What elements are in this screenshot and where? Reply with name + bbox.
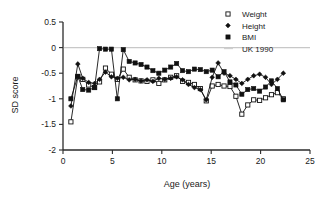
data-point-marker: [228, 73, 233, 78]
data-point-marker: [234, 83, 238, 87]
data-point-marker: [156, 76, 161, 81]
data-point-marker: [87, 88, 91, 92]
chart-canvas: 0.50-0.5-1-1.5-2 0510152025 SD score Age…: [0, 0, 329, 200]
data-point-marker: [145, 65, 149, 69]
data-point-marker: [257, 72, 262, 77]
data-point-marker: [228, 84, 232, 88]
data-point-marker: [240, 112, 244, 116]
data-point-marker: [169, 65, 173, 69]
data-point-marker: [216, 61, 221, 66]
data-point-marker: [175, 61, 179, 65]
data-point-marker: [226, 12, 230, 16]
data-point-marker: [246, 87, 250, 91]
data-point-marker: [222, 70, 226, 74]
data-point-marker: [93, 85, 97, 89]
data-point-marker: [163, 68, 167, 72]
legend-item-bmi[interactable]: BMI: [226, 33, 256, 42]
data-point-marker: [157, 81, 161, 85]
y-tick-label: 0.5: [44, 17, 56, 27]
data-point-marker: [69, 104, 74, 109]
data-series-layer: [69, 47, 286, 124]
data-point-marker: [198, 68, 202, 72]
data-point-marker: [252, 98, 256, 102]
data-point-marker: [234, 94, 238, 98]
data-point-marker: [275, 86, 279, 90]
data-point-marker: [75, 62, 80, 67]
data-point-marker: [216, 82, 220, 86]
x-tick-label: 10: [157, 156, 167, 166]
y-tick-label: -1.5: [41, 119, 56, 129]
data-point-marker: [186, 70, 190, 74]
x-tick-label: 0: [61, 156, 66, 166]
data-point-marker: [251, 73, 256, 78]
data-point-marker: [121, 75, 126, 80]
legend-label: Weight: [242, 10, 268, 19]
data-point-marker: [281, 98, 285, 102]
y-tick-label: 0: [51, 43, 56, 53]
legend-item-weight[interactable]: Weight: [226, 10, 268, 19]
x-tick-label: 25: [305, 156, 315, 166]
data-point-marker: [246, 103, 250, 107]
chart-legend: WeightHeightBMIUK 1990: [224, 10, 274, 54]
y-axis-tick-labels: 0.50-0.5-1-1.5-2: [41, 17, 56, 155]
data-point-marker: [240, 92, 244, 96]
legend-label: Height: [242, 22, 266, 31]
data-point-marker: [210, 75, 215, 80]
data-point-marker: [263, 85, 267, 89]
x-tick-label: 20: [256, 156, 266, 166]
data-point-marker: [180, 69, 184, 73]
data-point-marker: [127, 59, 131, 63]
data-point-marker: [76, 74, 80, 78]
data-point-marker: [97, 47, 101, 51]
y-axis-title: SD score: [10, 76, 20, 113]
data-point-marker: [109, 47, 113, 51]
data-point-marker: [263, 96, 267, 100]
data-point-marker: [69, 97, 73, 101]
legend-label: BMI: [242, 33, 256, 42]
y-tick-label: -1: [48, 94, 56, 104]
data-point-marker: [226, 35, 230, 39]
data-point-marker: [216, 75, 220, 79]
x-tick-label: 15: [206, 156, 216, 166]
data-point-marker: [192, 67, 196, 71]
data-point-marker: [204, 70, 208, 74]
data-point-marker: [133, 61, 137, 65]
data-point-marker: [103, 47, 107, 51]
data-point-marker: [139, 62, 143, 66]
data-point-marker: [226, 23, 231, 28]
data-point-marker: [228, 80, 232, 84]
y-tick-label: -0.5: [41, 68, 56, 78]
data-point-marker: [121, 67, 125, 71]
data-point-marker: [115, 97, 119, 101]
data-point-marker: [151, 69, 155, 73]
data-point-marker: [157, 71, 161, 75]
data-point-marker: [69, 120, 73, 124]
data-point-marker: [269, 93, 273, 97]
x-axis-tick-labels: 0510152025: [61, 156, 315, 166]
data-point-marker: [222, 84, 226, 88]
data-point-marker: [210, 68, 214, 72]
legend-item-height[interactable]: Height: [226, 22, 266, 31]
data-point-marker: [269, 79, 273, 83]
data-point-marker: [252, 86, 256, 90]
legend-label: UK 1990: [242, 45, 274, 54]
legend-item-uk-1990[interactable]: UK 1990: [224, 45, 274, 54]
data-point-marker: [258, 89, 262, 93]
x-tick-label: 5: [110, 156, 115, 166]
data-point-marker: [121, 48, 125, 52]
x-axis-title: Age (years): [164, 179, 211, 189]
y-tick-label: -2: [48, 145, 56, 155]
sd-score-chart: 0.50-0.5-1-1.5-2 0510152025 SD score Age…: [0, 0, 329, 200]
data-point-marker: [258, 98, 262, 102]
data-point-marker: [81, 87, 85, 91]
